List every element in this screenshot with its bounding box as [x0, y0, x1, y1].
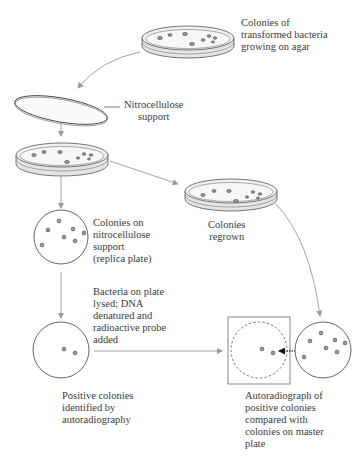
dish-with-nitrocellulose — [16, 143, 108, 176]
label-lysed: Bacteria on plate lysed; DNA denatured a… — [93, 286, 166, 346]
master-petri-dish — [142, 26, 234, 58]
arrow-to-regrown — [110, 161, 178, 184]
label-master-plate: Colonies of transformed bacteria growing… — [241, 17, 328, 53]
regrown-petri-dish — [185, 179, 277, 211]
master-plate-comparison — [295, 322, 351, 378]
label-positive-colonies: Positive colonies identified by autoradi… — [62, 390, 133, 426]
label-autoradiograph: Autoradiograph of positive colonies comp… — [245, 390, 324, 450]
label-nitrocellulose: Nitrocellulose support — [124, 99, 183, 123]
replica-plate — [34, 210, 88, 264]
arrow-to-nitrocellulose — [78, 52, 140, 88]
autoradiograph-film — [228, 317, 290, 384]
diagram-canvas — [0, 0, 362, 456]
label-replica-plate: Colonies on nitrocellulose support (repl… — [93, 217, 152, 265]
arrow-regrown-to-master — [276, 204, 320, 316]
label-regrown: Colonies regrown — [208, 219, 245, 243]
positive-colonies-plate — [33, 322, 89, 378]
